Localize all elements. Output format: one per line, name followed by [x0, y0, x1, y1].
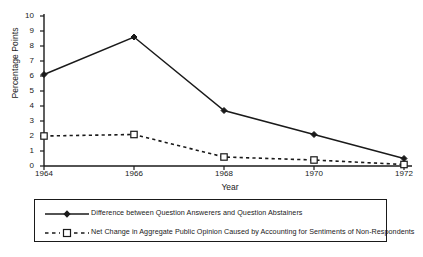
legend-marker-solid-diamond-icon — [43, 206, 91, 218]
series-line-0 — [44, 37, 404, 159]
legend-entry-1: Net Change in Aggregate Public Opinion C… — [43, 224, 415, 238]
data-point-marker — [131, 131, 137, 137]
chart-legend: Difference between Question Answerers an… — [34, 199, 387, 242]
legend-entry-1-label: Net Change in Aggregate Public Opinion C… — [91, 227, 415, 236]
legend-entry-0: Difference between Question Answerers an… — [43, 205, 302, 219]
data-point-marker — [221, 154, 227, 160]
data-point-marker — [311, 157, 317, 163]
chart-figure: Percentage Points Year 012345678910 1964… — [0, 0, 423, 257]
data-series-group — [41, 34, 407, 168]
data-point-marker — [311, 132, 317, 138]
plot-area: Percentage Points Year 012345678910 1964… — [0, 0, 423, 200]
chart-plot-svg — [0, 0, 423, 200]
data-point-marker — [401, 161, 407, 167]
legend-marker-dashed-square-icon — [43, 225, 91, 237]
legend-entry-0-label: Difference between Question Answerers an… — [91, 208, 302, 217]
data-point-marker — [401, 156, 407, 162]
data-point-marker — [41, 133, 47, 139]
axes-group — [40, 14, 412, 170]
